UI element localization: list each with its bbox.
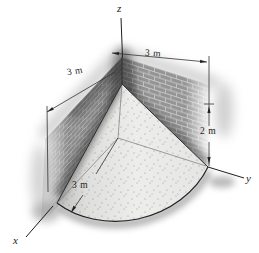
y-axis-label: y [246, 173, 251, 184]
statics-figure: z y x 3 m 3 m 2 m 3 m [0, 0, 259, 253]
dim-right-wall-length-label: 3 m [145, 48, 162, 59]
x-axis-label: x [13, 235, 18, 246]
cone-corner-diagram [0, 0, 259, 253]
dim-height-label: 2 m [200, 127, 216, 137]
z-axis-label: z [117, 3, 121, 14]
dim-radius-label: 3 m [72, 181, 88, 191]
